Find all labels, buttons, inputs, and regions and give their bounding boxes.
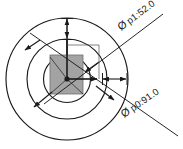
horizontal-dimension-arrow — [103, 73, 128, 85]
annotation-p0: Ø p0:91.0 — [118, 85, 160, 120]
leader-p0-arrow-upper — [25, 40, 40, 50]
center-point — [64, 76, 69, 81]
leader-p0-group — [25, 33, 178, 136]
vertical-dimension-arrow — [61, 18, 73, 55]
annotation-p1: Ø p1:52.0 — [115, 0, 157, 33]
leader-p0-arrow-lower — [96, 86, 114, 100]
technical-drawing-canvas: Ø p1:52.0 Ø p0:91.0 — [0, 0, 183, 149]
annotation-p0-label: p0:91.0 — [128, 86, 161, 114]
drawing-svg: Ø p1:52.0 Ø p0:91.0 — [0, 0, 183, 149]
